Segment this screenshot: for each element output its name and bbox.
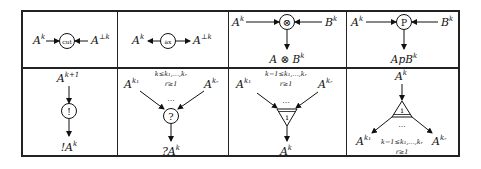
ofcourse-output-formula: !Ak — [61, 140, 78, 154]
axiom-link-cell: Ak ax A⊥k — [131, 33, 212, 49]
contraction-condition-r: r≥1 — [280, 80, 293, 88]
diagram-canvas: Ak cut A⊥k Ak ax A⊥k Ak ⊗ Bk A ⊗ Bk Ak P… — [0, 0, 481, 169]
ax-right-formula: A⊥k — [192, 33, 212, 47]
par-output-formula: ApBk — [390, 52, 417, 65]
whynot-output-formula: ?Ak — [162, 144, 180, 158]
tensor-left-formula: Ak — [231, 15, 244, 29]
cut-right-formula: A⊥k — [90, 33, 110, 47]
par-left-formula: Ak — [350, 15, 363, 29]
dual-condition-r: r≥1 — [396, 148, 409, 156]
whynot-right-formula: Akᵣ — [203, 77, 219, 91]
ofcourse-input-formula: Ak+1 — [56, 71, 80, 85]
whynot-condition-r: r≥1 — [165, 80, 178, 88]
contraction-link-cell: k−1≤k₁,...,kᵣ r≥1 Ak₁ Akᵣ ... i Ak — [235, 70, 333, 158]
whynot-left-formula: Ak₁ — [123, 77, 139, 91]
cut-left-formula: Ak — [32, 33, 45, 47]
par-link-cell: Ak P Bk ApBk — [350, 15, 453, 66]
par-node-label: P — [401, 18, 407, 28]
dual-ellipsis: ... — [398, 120, 406, 129]
tensor-output-formula: A ⊗ Bk — [268, 52, 304, 65]
whynot-node-label: ? — [168, 111, 173, 122]
contraction-output-formula: Ak — [279, 144, 292, 158]
contraction-node-label: i — [286, 113, 289, 122]
dual-left-formula: Ak₁ — [355, 134, 371, 148]
whynot-ellipsis: ... — [167, 94, 175, 103]
dual-right-formula: Akᵣ — [431, 134, 447, 148]
ax-node-label: ax — [165, 38, 173, 45]
par-right-formula: Bk — [440, 15, 453, 29]
dual-node-label: i — [401, 106, 404, 115]
contraction-ellipsis: ... — [282, 96, 290, 105]
tensor-node-label: ⊗ — [283, 17, 291, 28]
dual-condition-range: k−1≤k₁,...,kᵣ — [381, 138, 424, 146]
tensor-link-cell: Ak ⊗ Bk A ⊗ Bk — [231, 15, 337, 66]
cut-link-cell: Ak cut A⊥k — [32, 33, 110, 49]
tensor-right-formula: Bk — [324, 15, 337, 29]
dual-input-formula: Ak — [394, 69, 407, 83]
ofcourse-node-label: ! — [67, 106, 71, 117]
whynot-link-cell: k≤k₁,...,kᵣ r≥1 Ak₁ Akᵣ ... ? ?Ak — [123, 70, 219, 158]
cut-node-label: cut — [62, 38, 72, 45]
contraction-condition-range: k−1≤k₁,...,kᵣ — [265, 70, 308, 78]
dual-contraction-link-cell: Ak i ... Ak₁ Akᵣ k−1≤k₁,...,kᵣ r≥1 — [355, 69, 447, 156]
whynot-condition-range: k≤k₁,...,kᵣ — [155, 70, 188, 78]
contraction-left-formula: Ak₁ — [235, 77, 251, 91]
ofcourse-link-cell: Ak+1 ! !Ak — [56, 71, 80, 154]
contraction-right-formula: Akᵣ — [317, 77, 333, 91]
ax-left-formula: Ak — [131, 33, 144, 47]
